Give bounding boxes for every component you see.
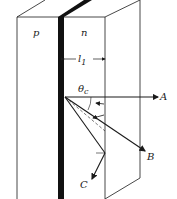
ray-a-label: A [159,91,167,102]
ray-c-label: C [80,179,88,190]
theta-c-label: θc [78,83,89,96]
ray-c-arrow [92,153,105,179]
light-rays [65,97,158,179]
l1-label: l1 [78,53,86,67]
n-label: n [81,27,87,38]
pn-junction-diagram: p n l1 θc A B C [0,0,177,199]
n-region-block [64,0,140,199]
ray-b-label: B [146,151,154,162]
ray-c-incident [65,97,105,153]
p-label: p [33,27,40,38]
